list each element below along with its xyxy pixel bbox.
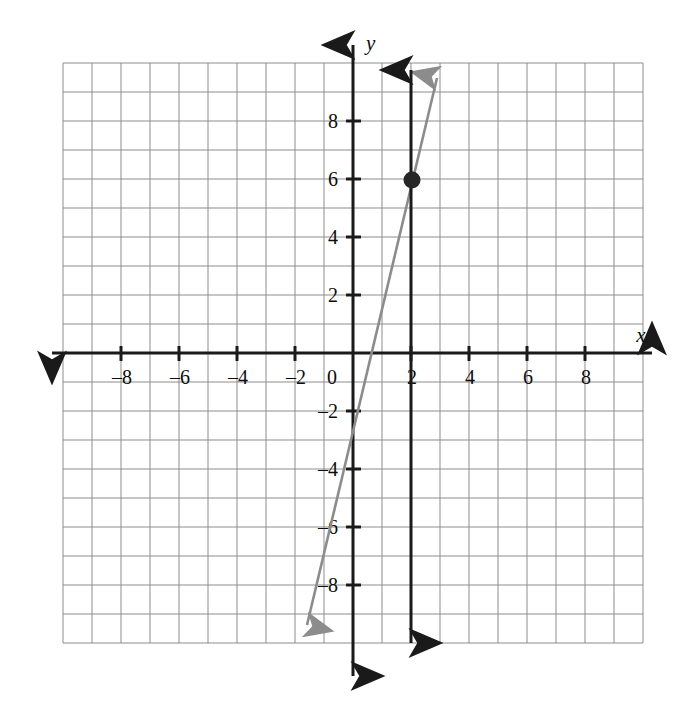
x-tick-label: –4 <box>227 366 248 388</box>
intersection-point <box>404 172 421 189</box>
y-tick-label: –8 <box>317 574 338 596</box>
axes <box>52 45 652 676</box>
y-tick-label: 2 <box>328 284 338 306</box>
x-tick-label: 4 <box>465 366 475 388</box>
coordinate-plane-figure: –8 –6 –4 –2 2 4 6 8 8 6 4 2 –2 –4 –6 –8 … <box>0 0 689 712</box>
x-axis-label: x <box>635 323 646 347</box>
x-axis-tick-labels: –8 –6 –4 –2 2 4 6 8 <box>111 366 591 388</box>
y-tick-label: 8 <box>328 110 338 132</box>
x-tick-label: 6 <box>523 366 533 388</box>
y-axis-label: y <box>364 31 376 55</box>
x-tick-label: –6 <box>169 366 190 388</box>
y-tick-label: 6 <box>328 168 338 190</box>
y-tick-label: –4 <box>317 458 338 480</box>
graph-canvas: –8 –6 –4 –2 2 4 6 8 8 6 4 2 –2 –4 –6 –8 … <box>0 0 689 712</box>
y-tick-label: –2 <box>317 400 338 422</box>
origin-label: 0 <box>327 366 337 388</box>
x-tick-label: –8 <box>111 366 132 388</box>
x-tick-label: –2 <box>285 366 306 388</box>
x-tick-label: 8 <box>581 366 591 388</box>
y-tick-label: 4 <box>328 226 338 248</box>
